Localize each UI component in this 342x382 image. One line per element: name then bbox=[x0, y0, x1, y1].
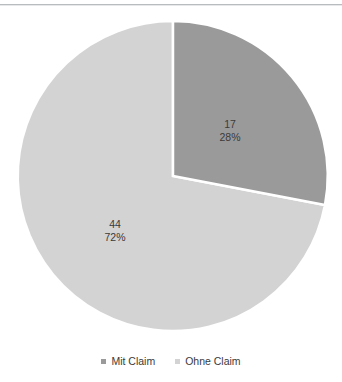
pie-chart-figure: 17 28% 44 72% Mit Claim Ohne Claim bbox=[0, 0, 342, 382]
top-divider-rule-shadow bbox=[0, 5, 342, 6]
square-marker-icon bbox=[175, 359, 180, 364]
pie-chart-svg bbox=[0, 10, 342, 345]
pie-slice-mit-claim[interactable] bbox=[173, 21, 328, 205]
legend-item-ohne-claim[interactable]: Ohne Claim bbox=[175, 355, 240, 368]
square-marker-icon bbox=[101, 359, 106, 364]
chart-legend: Mit Claim Ohne Claim bbox=[0, 352, 342, 370]
legend-label-ohne-claim: Ohne Claim bbox=[185, 355, 240, 368]
chart-plot-area: 17 28% 44 72% bbox=[0, 10, 342, 345]
legend-label-mit-claim: Mit Claim bbox=[111, 355, 155, 368]
legend-item-mit-claim[interactable]: Mit Claim bbox=[101, 355, 155, 368]
